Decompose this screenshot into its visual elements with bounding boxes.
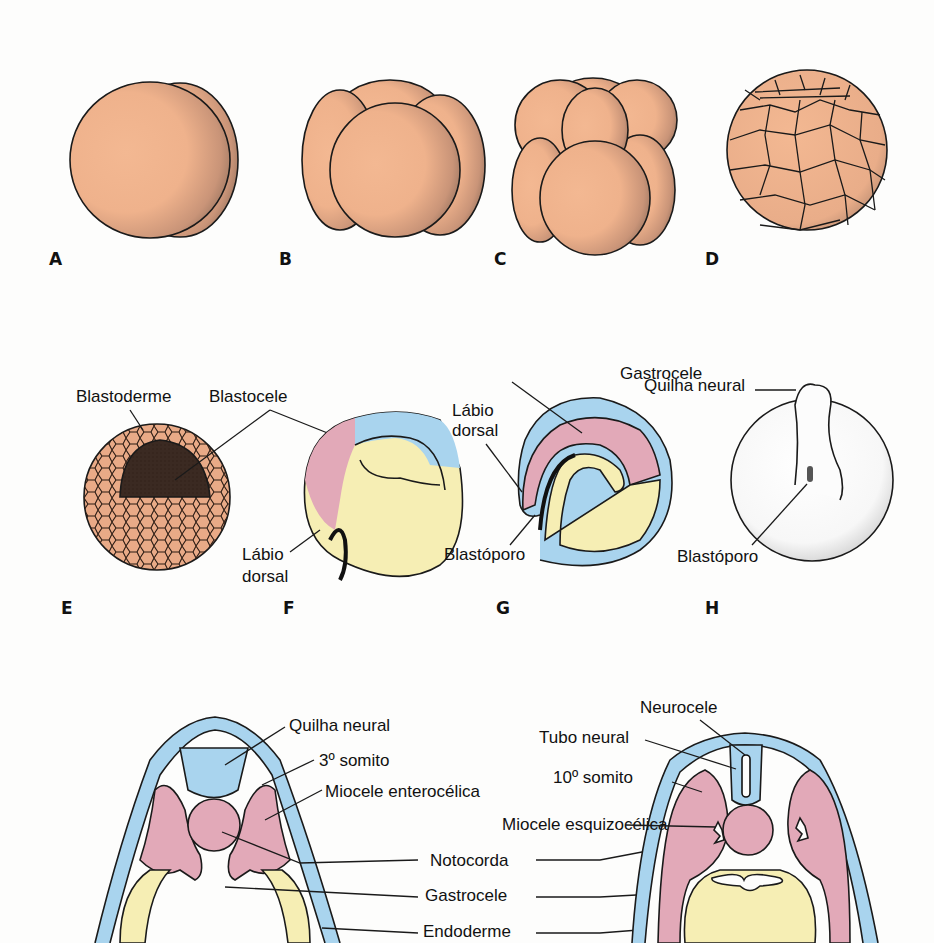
label-blastoporo-h: Blastóporo xyxy=(677,547,758,566)
panel-label-e: E xyxy=(61,598,73,618)
label-10-somito: 10º somito xyxy=(553,768,633,787)
amphioxus-development-diagram: A B C D Blastoderme Blastocele Lábio dor… xyxy=(0,0,934,943)
label-gastrocele-section: Gastrocele xyxy=(425,886,507,905)
panel-label-a: A xyxy=(49,249,63,269)
label-labio-g-line2: dorsal xyxy=(452,421,498,440)
panel-label-f: F xyxy=(283,598,295,618)
panel-label-g: G xyxy=(496,598,510,618)
panel-label-h: H xyxy=(705,598,719,618)
panel-c-eight-cell-stage xyxy=(512,78,677,255)
label-endoderme: Endoderme xyxy=(423,922,511,941)
section-right-10th-somite xyxy=(632,733,878,943)
label-3-somito: 3º somito xyxy=(319,751,389,770)
panel-h-neurula-surface xyxy=(731,384,893,561)
label-labio-g-line1: Lábio xyxy=(452,401,494,420)
panel-label-b: B xyxy=(279,249,292,269)
panel-e-blastula-section xyxy=(84,424,230,570)
panel-label-c: C xyxy=(494,249,506,269)
label-blastoporo-g: Blastóporo xyxy=(444,545,525,564)
label-blastoderme: Blastoderme xyxy=(76,387,171,406)
panel-d-blastula xyxy=(727,70,887,230)
label-blastocele-e: Blastocele xyxy=(209,387,287,406)
label-miocele-enterocelica: Miocele enterocélica xyxy=(325,782,481,801)
label-notocorda: Notocorda xyxy=(430,851,509,870)
panel-a-two-cell-stage xyxy=(70,82,238,238)
label-neurocele: Neurocele xyxy=(640,698,718,717)
label-labio-f-line2: dorsal xyxy=(242,567,288,586)
panel-g-late-gastrula xyxy=(518,398,672,566)
label-tubo-neural: Tubo neural xyxy=(539,728,629,747)
panel-f-early-gastrula xyxy=(304,412,462,580)
label-quilha-h: Quilha neural xyxy=(644,376,745,395)
label-miocele-esquizocelica: Miocele esquizocélica xyxy=(502,815,668,834)
section-left-3rd-somite xyxy=(95,717,340,943)
label-labio-f-line1: Lábio xyxy=(242,545,284,564)
label-quilha-neural-section: Quilha neural xyxy=(289,716,390,735)
panel-label-d: D xyxy=(705,249,719,269)
panel-b-four-cell-stage xyxy=(302,80,485,237)
